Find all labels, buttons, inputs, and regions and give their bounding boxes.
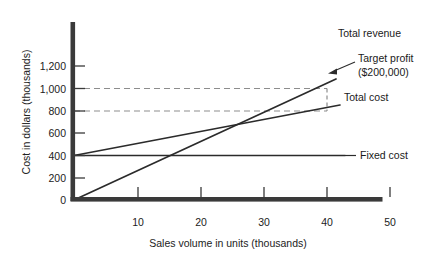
- total-revenue-label: Total revenue: [338, 27, 401, 39]
- x-axis-title: Sales volume in units (thousands): [149, 237, 307, 249]
- y-tick-label-800: 800: [48, 105, 66, 117]
- x-tick-label-40: 40: [321, 216, 333, 228]
- fixed-cost-label: Fixed cost: [360, 149, 408, 161]
- x-tick-label-50: 50: [384, 216, 396, 228]
- y-axis-bar: [71, 22, 76, 201]
- x-tick-label-10: 10: [132, 216, 144, 228]
- x-axis-bar: [71, 197, 383, 202]
- target-profit-label: Target profit: [358, 52, 414, 64]
- y-tick-label-200: 200: [48, 172, 66, 184]
- total-cost-label: Total cost: [344, 91, 388, 103]
- x-tick-label-20: 20: [195, 216, 207, 228]
- y-axis-title: Cost in dollars (thousands): [20, 50, 32, 175]
- target-profit-amount-label: ($200,000): [358, 66, 409, 78]
- y-tick-label-0: 0: [60, 194, 66, 206]
- x-tick-label-30: 30: [258, 216, 270, 228]
- y-tick-label-600: 600: [48, 127, 66, 139]
- chart-canvas: 1,200 1,000 800 600 400 200 0 10 20 30 4…: [0, 0, 430, 265]
- y-tick-label-1000: 1,000: [40, 83, 66, 95]
- y-tick-label-400: 400: [48, 150, 66, 162]
- cvp-break-even-chart: 1,200 1,000 800 600 400 200 0 10 20 30 4…: [0, 0, 430, 265]
- y-tick-label-1200: 1,200: [40, 60, 66, 72]
